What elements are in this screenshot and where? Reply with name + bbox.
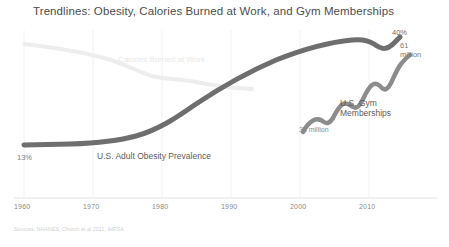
axis-tick-1990: 1990: [221, 203, 237, 210]
data-label-obesity-start: 13%: [17, 154, 32, 163]
series-line-calories-burned: [24, 44, 252, 89]
axis-tick-2010: 2010: [359, 203, 375, 210]
series-label-gym-line1: U.S. Gym: [340, 98, 391, 108]
data-label-obesity-end: 40%: [392, 29, 407, 38]
data-label-gym-end: 61 million: [400, 42, 421, 60]
series-label-gym-line2: Memberships: [340, 108, 391, 118]
series-label-obesity: U.S. Adult Obesity Prevalence: [97, 151, 211, 161]
source-note: Sources: NHANES, Church et al 2011, IHRS…: [14, 226, 124, 232]
axis-tick-1960: 1960: [14, 203, 30, 210]
series-line-gym-memberships: [303, 55, 410, 132]
series-label-calories-burned: Calories Burned at Work: [118, 55, 205, 64]
chart-container: Trendlines: Obesity, Calories Burned at …: [0, 0, 449, 247]
data-label-gym-end-unit: million: [400, 51, 421, 60]
series-label-gym-memberships: U.S. Gym Memberships: [340, 98, 391, 118]
axis-tick-2000: 2000: [290, 203, 306, 210]
data-label-gym-start: 33 million: [299, 126, 329, 134]
axis-tick-1980: 1980: [152, 203, 168, 210]
axis-tick-1970: 1970: [83, 203, 99, 210]
